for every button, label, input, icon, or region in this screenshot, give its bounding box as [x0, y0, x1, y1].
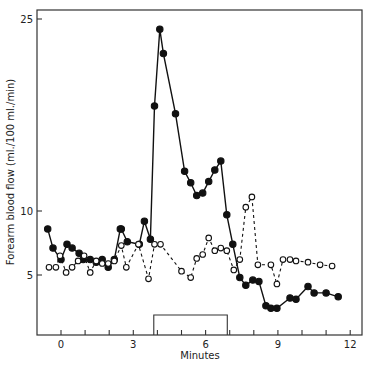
y-axis-labels: 51025	[20, 14, 33, 281]
data-point	[224, 248, 230, 254]
data-point	[231, 267, 237, 273]
data-point	[124, 239, 130, 245]
data-point	[305, 259, 311, 265]
data-point	[119, 243, 125, 249]
data-point	[200, 190, 206, 196]
data-point	[243, 204, 249, 210]
x-tick-label: 0	[58, 339, 64, 350]
data-point	[293, 258, 299, 264]
y-axis-ticks	[37, 19, 42, 275]
x-axis-title: Minutes	[180, 350, 219, 361]
data-point	[147, 236, 153, 242]
x-tick-label: 12	[344, 339, 357, 350]
data-point	[112, 258, 118, 264]
data-point	[317, 262, 323, 268]
data-point	[146, 276, 152, 282]
data-point	[69, 265, 75, 271]
data-point	[200, 252, 206, 258]
data-point	[53, 265, 59, 271]
x-tick-label: 9	[275, 339, 281, 350]
data-point	[81, 253, 87, 259]
data-point	[268, 305, 274, 311]
data-point	[311, 290, 317, 296]
data-point	[69, 245, 75, 251]
plot-frame	[37, 10, 362, 335]
data-point	[335, 294, 341, 300]
data-point	[212, 167, 218, 173]
data-point	[152, 242, 158, 248]
data-point	[158, 242, 164, 248]
data-point	[255, 262, 261, 268]
data-point	[50, 245, 56, 251]
data-point	[274, 281, 280, 287]
data-point	[45, 226, 51, 232]
data-point	[293, 296, 299, 302]
data-point	[57, 253, 63, 259]
data-point	[105, 261, 111, 267]
y-tick-label: 10	[20, 206, 33, 217]
y-tick-label: 5	[27, 270, 33, 281]
x-tick-label: 6	[202, 339, 208, 350]
x-tick-label: 3	[130, 339, 136, 350]
data-point	[179, 268, 185, 274]
data-point	[249, 194, 255, 200]
data-point	[118, 226, 124, 232]
data-point	[305, 283, 311, 289]
data-point	[160, 50, 166, 56]
data-point	[194, 256, 200, 262]
stimulus-bracket	[154, 315, 228, 335]
data-point	[181, 168, 187, 174]
data-point	[93, 258, 99, 264]
y-axis-title: Forearm blood flow (ml./100 ml./min)	[5, 79, 16, 265]
data-point	[323, 290, 329, 296]
data-point	[63, 270, 69, 276]
data-point	[287, 295, 293, 301]
data-point	[243, 282, 249, 288]
data-point	[287, 257, 293, 263]
data-point	[206, 235, 212, 241]
data-point	[237, 274, 243, 280]
data-point	[218, 158, 224, 164]
series-open	[46, 194, 335, 287]
y-tick-label: 25	[20, 14, 33, 25]
data-point	[87, 270, 93, 276]
data-point	[329, 263, 335, 269]
data-point	[188, 180, 194, 186]
data-point	[224, 212, 230, 218]
data-point	[230, 241, 236, 247]
data-point	[124, 265, 130, 271]
data-point	[172, 111, 178, 117]
series-layer	[45, 26, 342, 311]
data-point	[206, 178, 212, 184]
x-axis-ticks	[61, 330, 350, 335]
data-point	[141, 218, 147, 224]
data-point	[194, 192, 200, 198]
data-point	[188, 275, 194, 281]
data-point	[212, 248, 218, 254]
data-point	[46, 265, 52, 271]
data-point	[136, 242, 142, 248]
data-point	[151, 103, 157, 109]
data-point	[274, 305, 280, 311]
data-point	[256, 278, 262, 284]
data-point	[218, 245, 224, 251]
data-point	[157, 26, 163, 32]
data-point	[99, 261, 105, 267]
data-point	[87, 256, 93, 262]
data-point	[237, 257, 243, 263]
data-point	[268, 262, 274, 268]
x-axis-labels: 036912	[58, 339, 357, 350]
data-point	[75, 258, 81, 264]
chart: 036912 51025 Minutes Forearm blood flow …	[0, 0, 372, 365]
data-point	[280, 257, 286, 263]
data-point	[250, 277, 256, 283]
